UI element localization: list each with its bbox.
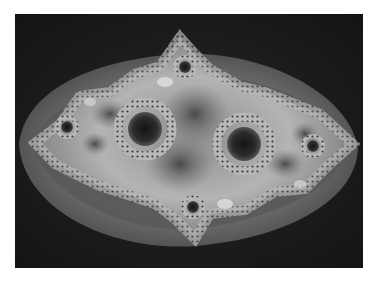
large-hole	[128, 112, 162, 146]
dark-blob	[81, 132, 109, 156]
small-hole	[187, 201, 199, 213]
highlight	[157, 77, 173, 87]
small-hole	[61, 121, 73, 133]
small-hole	[307, 140, 319, 152]
highlight	[217, 199, 233, 209]
dark-blob	[145, 136, 215, 192]
large-hole	[227, 127, 261, 161]
highlight	[294, 180, 306, 188]
fractal-image	[15, 14, 363, 268]
fractal-image-frame	[15, 14, 363, 268]
small-hole	[179, 61, 191, 73]
highlight	[84, 98, 96, 106]
